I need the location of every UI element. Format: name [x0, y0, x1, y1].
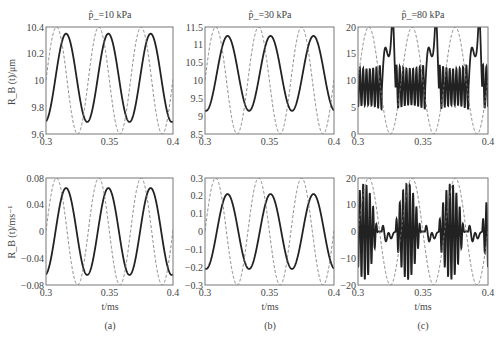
x-tick-label: 0.3: [40, 287, 53, 298]
y-tick-label: 20: [346, 22, 356, 33]
y-tick-label: 0: [351, 226, 356, 237]
title-b: p̂_=30 kPa: [248, 9, 292, 20]
y-tick-label: 10: [34, 75, 44, 86]
response-line: [46, 34, 173, 122]
x-tick-label: 0.3: [40, 136, 53, 147]
x-tick-label: 0.35: [261, 136, 279, 147]
x-tick-label: 0.4: [167, 287, 180, 298]
y-tick-label: 0: [198, 226, 203, 237]
y-tick-label: 10: [193, 75, 203, 86]
x-tick-label: 0.4: [482, 287, 495, 298]
y-tick-label: 10.4: [27, 22, 45, 33]
y-tick-label: 0.3: [191, 173, 204, 184]
caption-a: (a): [104, 320, 115, 332]
figure: 9.69.81010.210.40.30.350.48.599.51010.51…: [0, 0, 503, 337]
x-tick-label: 0.4: [167, 136, 180, 147]
xlabel-b: t/ms: [261, 301, 278, 312]
caption-c: (c): [417, 320, 428, 332]
panel-c-bottom: −20−10010200.30.350.4: [340, 173, 494, 299]
y-tick-label: 9.8: [32, 102, 45, 113]
panel-a-top: 9.69.81010.210.40.30.350.4: [27, 22, 180, 148]
xlabel-a: t/ms: [101, 301, 118, 312]
y-tick-label: 11: [193, 39, 203, 50]
ylabel-bottom: R_B (t)/ms⁻¹: [6, 205, 18, 258]
x-tick-label: 0.3: [199, 136, 212, 147]
panel-c-top: 051015200.30.350.4: [346, 17, 494, 147]
xlabel-c: t/ms: [414, 301, 431, 312]
y-tick-label: −0.1: [185, 244, 203, 255]
x-tick-label: 0.4: [328, 136, 341, 147]
x-tick-label: 0.4: [482, 136, 495, 147]
y-tick-label: −0.2: [185, 262, 203, 273]
x-tick-label: 0.3: [199, 287, 212, 298]
title-c: p̂_=80 kPa: [401, 9, 445, 20]
y-tick-label: −0.04: [21, 253, 44, 264]
y-tick-label: 10.5: [186, 57, 204, 68]
panels: 9.69.81010.210.40.30.350.48.599.51010.51…: [21, 17, 494, 298]
driving-pressure-line: [46, 27, 173, 134]
y-tick-label: 0: [39, 226, 44, 237]
x-tick-label: 0.35: [414, 287, 432, 298]
y-tick-label: 0.1: [191, 208, 204, 219]
y-tick-label: 9: [198, 111, 203, 122]
x-tick-label: 0.35: [414, 136, 432, 147]
y-tick-label: 0.04: [27, 199, 45, 210]
panel-b-top: 8.599.51010.51111.50.30.350.4: [186, 22, 341, 148]
x-tick-label: 0.4: [328, 287, 341, 298]
driving-pressure-line: [205, 27, 334, 134]
y-tick-label: 15: [346, 48, 356, 59]
y-tick-label: 0.08: [27, 173, 45, 184]
ylabel-top: R_B (t)/μm: [6, 59, 18, 105]
x-tick-label: 0.3: [352, 287, 365, 298]
x-tick-label: 0.35: [101, 287, 119, 298]
y-tick-label: 9.5: [191, 93, 204, 104]
y-tick-label: 10.2: [27, 48, 45, 59]
title-a: p̂_=10 kPa: [88, 9, 132, 20]
x-tick-label: 0.35: [261, 287, 279, 298]
y-tick-label: 11.5: [186, 22, 203, 33]
y-tick-label: 5: [351, 102, 356, 113]
y-tick-label: −10: [340, 253, 356, 264]
y-tick-label: 10: [346, 75, 356, 86]
y-tick-label: 20: [346, 173, 356, 184]
y-tick-label: 10: [346, 199, 356, 210]
caption-b: (b): [264, 320, 276, 332]
y-tick-label: 0.2: [191, 190, 204, 201]
x-tick-label: 0.35: [101, 136, 119, 147]
x-tick-label: 0.3: [352, 136, 365, 147]
panel-b-bottom: −0.3−0.2−0.100.10.20.30.30.350.4: [185, 173, 340, 299]
panel-a-bottom: −0.08−0.0400.040.080.30.350.4: [21, 173, 179, 299]
